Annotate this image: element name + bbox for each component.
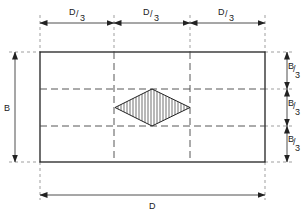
svg-text:3: 3 [80, 13, 85, 23]
svg-text:3: 3 [295, 143, 300, 153]
svg-text:D: D [218, 7, 225, 17]
label-right-third-1: B / 3 [288, 61, 300, 80]
hatched-diamond [115, 89, 190, 126]
label-right-third-3: B / 3 [288, 134, 300, 153]
svg-text:/: / [76, 9, 79, 19]
svg-text:3: 3 [295, 107, 300, 117]
extension-lines-bottom [40, 162, 265, 200]
label-bottom-D: D [149, 201, 156, 211]
label-top-third-2: D / 3 [143, 7, 159, 23]
svg-text:3: 3 [154, 13, 159, 23]
label-top-third-1: D / 3 [69, 7, 85, 23]
svg-text:/: / [150, 9, 153, 19]
label-top-third-3: D / 3 [218, 7, 234, 23]
extension-lines-left [9, 52, 40, 162]
label-right-third-2: B / 3 [288, 98, 300, 117]
svg-text:3: 3 [295, 70, 300, 80]
diagram-canvas: D / 3 D / 3 D / 3 B / 3 B / 3 B / 3 B D [0, 0, 304, 214]
svg-text:D: D [69, 7, 76, 17]
label-left-B: B [4, 103, 10, 113]
svg-text:D: D [143, 7, 150, 17]
svg-text:/: / [225, 9, 228, 19]
svg-text:3: 3 [229, 13, 234, 23]
